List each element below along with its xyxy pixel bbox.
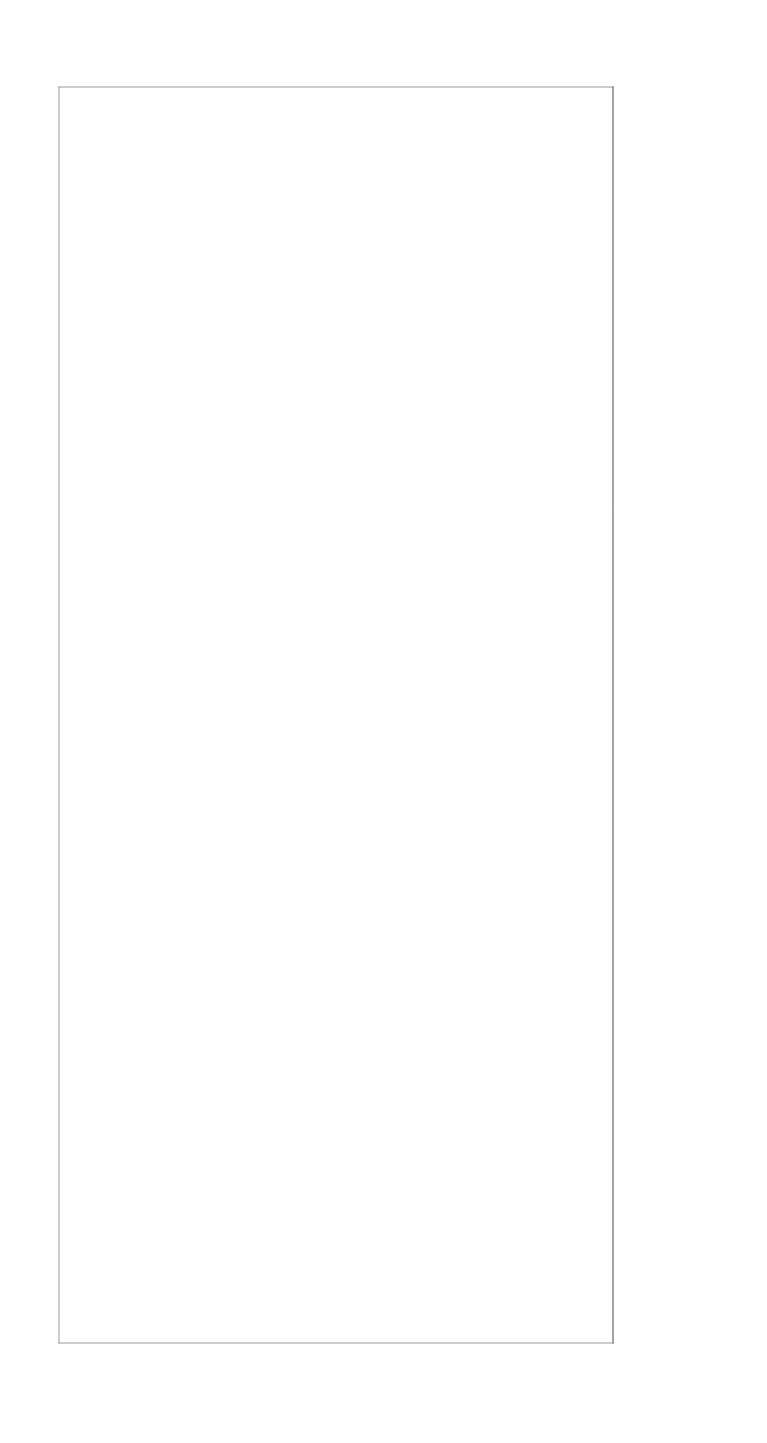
legend xyxy=(700,86,740,1343)
plot-frame xyxy=(58,86,613,1343)
plot-area xyxy=(58,86,613,1343)
chart-canvas xyxy=(0,0,767,1443)
value-axis-baseline xyxy=(612,86,613,1343)
